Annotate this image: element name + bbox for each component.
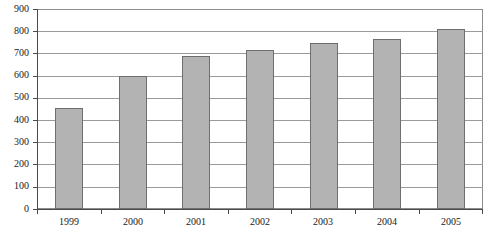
x-tick-label-2001: 2001 <box>164 216 228 227</box>
bar-2003[interactable] <box>310 43 338 209</box>
bar-2005[interactable] <box>437 29 465 209</box>
x-tick-label-2005: 2005 <box>419 216 483 227</box>
bar-2000[interactable] <box>119 76 147 209</box>
y-tick-label-300: 300 <box>14 137 29 147</box>
y-tick-label-900: 900 <box>14 4 29 14</box>
y-tick-label-200: 200 <box>14 159 29 169</box>
x-tick-mark-7 <box>482 209 483 214</box>
x-tick-label-1999: 1999 <box>37 216 101 227</box>
bar-1999[interactable] <box>55 108 83 209</box>
x-tick-label-2003: 2003 <box>291 216 355 227</box>
x-tick-mark-2 <box>164 209 165 214</box>
y-tick-label-600: 600 <box>14 70 29 80</box>
y-axis-label-group: 900 800 700 600 500 400 300 200 100 0 <box>0 0 33 237</box>
bar-series-group <box>37 9 483 209</box>
x-tick-mark-0 <box>37 209 38 214</box>
y-tick-label-700: 700 <box>14 48 29 58</box>
x-tick-label-2004: 2004 <box>355 216 419 227</box>
y-tick-label-800: 800 <box>14 26 29 36</box>
bar-2001[interactable] <box>182 56 210 209</box>
x-tick-label-2000: 2000 <box>101 216 165 227</box>
bar-2002[interactable] <box>246 50 274 209</box>
y-tick-label-400: 400 <box>14 115 29 125</box>
y-tick-label-0: 0 <box>24 204 29 214</box>
y-tick-label-500: 500 <box>14 92 29 102</box>
x-tick-mark-4 <box>291 209 292 214</box>
y-tick-label-100: 100 <box>14 181 29 191</box>
bar-2004[interactable] <box>373 39 401 209</box>
bar-chart: 900 800 700 600 500 400 300 200 100 0 <box>0 0 496 237</box>
x-tick-mark-1 <box>101 209 102 214</box>
x-tick-mark-3 <box>228 209 229 214</box>
x-tick-mark-6 <box>419 209 420 214</box>
x-tick-label-2002: 2002 <box>228 216 292 227</box>
x-tick-mark-5 <box>355 209 356 214</box>
